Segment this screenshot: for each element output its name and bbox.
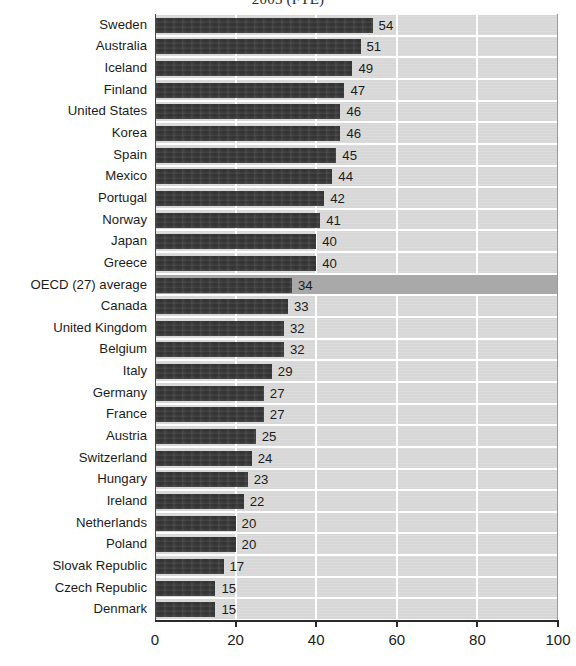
plot-right-edge — [557, 14, 558, 621]
x-tick-label-40: 40 — [308, 631, 325, 648]
category-label: Finland — [0, 83, 147, 97]
bar-value-label: 25 — [262, 430, 277, 444]
category-label: Poland — [0, 537, 147, 551]
bar — [155, 472, 248, 487]
category-label: Italy — [0, 364, 147, 378]
bar — [155, 299, 288, 314]
x-tick-label-80: 80 — [469, 631, 486, 648]
category-label: Iceland — [0, 61, 147, 75]
category-label: Mexico — [0, 169, 147, 183]
x-tick-20 — [235, 620, 237, 627]
bar — [155, 321, 284, 336]
bar-value-label: 46 — [346, 105, 361, 119]
bar-value-label: 47 — [350, 84, 365, 98]
category-label: Hungary — [0, 472, 147, 486]
x-tick-80 — [476, 620, 478, 627]
plot-left-edge — [155, 14, 156, 621]
bar-value-label: 29 — [278, 365, 293, 379]
bar — [155, 407, 264, 422]
category-label: Japan — [0, 234, 147, 248]
chart-title: 2003 (FTE) — [0, 0, 576, 8]
category-label: Portugal — [0, 191, 147, 205]
bar — [155, 537, 236, 552]
plot-area: 5451494746464544424140403433323229272725… — [155, 14, 558, 620]
category-label: Belgium — [0, 342, 147, 356]
bar-value-label: 33 — [294, 300, 309, 314]
bar-value-label: 49 — [358, 62, 373, 76]
bar-value-label: 34 — [298, 279, 313, 293]
bar — [155, 234, 316, 249]
bar-value-label: 45 — [342, 149, 357, 163]
bar-value-label: 40 — [322, 257, 337, 271]
x-tick-100 — [557, 620, 559, 627]
bar — [155, 61, 352, 76]
category-label: Ireland — [0, 494, 147, 508]
bar — [155, 364, 272, 379]
bar — [155, 126, 340, 141]
bar — [155, 104, 340, 119]
category-label: United States — [0, 104, 147, 118]
bar-value-label: 32 — [290, 343, 305, 357]
category-label: Norway — [0, 213, 147, 227]
category-label: Spain — [0, 148, 147, 162]
bar — [155, 581, 215, 596]
x-tick-label-60: 60 — [388, 631, 405, 648]
x-tick-label-20: 20 — [227, 631, 244, 648]
category-label: Czech Republic — [0, 581, 147, 595]
x-tick-label-0: 0 — [151, 631, 159, 648]
bar — [155, 213, 320, 228]
bar — [155, 516, 236, 531]
category-label: Denmark — [0, 602, 147, 616]
bar-value-label: 17 — [230, 560, 245, 574]
category-label: Netherlands — [0, 516, 147, 530]
row-band — [155, 578, 558, 600]
bar-value-label: 23 — [254, 473, 269, 487]
x-tick-60 — [396, 620, 398, 627]
bar-value-label: 41 — [326, 214, 341, 228]
category-label: Australia — [0, 39, 147, 53]
bar — [155, 191, 324, 206]
bar — [155, 429, 256, 444]
bar-value-label: 15 — [221, 582, 236, 596]
x-tick-label-100: 100 — [545, 631, 570, 648]
bar — [155, 559, 224, 574]
bar-value-label: 15 — [221, 603, 236, 617]
category-label: Korea — [0, 126, 147, 140]
bar — [155, 342, 284, 357]
bar-value-label: 24 — [258, 452, 273, 466]
bar-value-label: 44 — [338, 170, 353, 184]
bar — [155, 494, 244, 509]
category-label: Canada — [0, 299, 147, 313]
bar — [155, 278, 292, 293]
category-label-column: SwedenAustraliaIcelandFinlandUnited Stat… — [0, 14, 151, 620]
bar — [155, 386, 264, 401]
bar-value-label: 20 — [242, 538, 257, 552]
bar-value-label: 20 — [242, 517, 257, 531]
bar-value-label: 27 — [270, 387, 285, 401]
bar-value-label: 32 — [290, 322, 305, 336]
bar-value-label: 54 — [379, 19, 394, 33]
category-label: Switzerland — [0, 451, 147, 465]
category-label: Austria — [0, 429, 147, 443]
row-band — [155, 599, 558, 620]
category-label: Germany — [0, 386, 147, 400]
bar — [155, 18, 373, 33]
category-label: United Kingdom — [0, 321, 147, 335]
x-axis-line — [155, 620, 559, 622]
bar-value-label: 27 — [270, 408, 285, 422]
bar-value-label: 42 — [330, 192, 345, 206]
x-tick-40 — [315, 620, 317, 627]
bar — [155, 83, 344, 98]
bar-value-label: 40 — [322, 235, 337, 249]
bar — [155, 39, 361, 54]
category-label: OECD (27) average — [0, 278, 147, 292]
category-label: Greece — [0, 256, 147, 270]
bar-chart: 2003 (FTE) SwedenAustraliaIcelandFinland… — [0, 0, 576, 666]
bar — [155, 602, 215, 617]
bar — [155, 148, 336, 163]
bar-value-label: 51 — [367, 40, 382, 54]
bar-value-label: 46 — [346, 127, 361, 141]
bar — [155, 256, 316, 271]
bar-value-label: 22 — [250, 495, 265, 509]
bar — [155, 169, 332, 184]
